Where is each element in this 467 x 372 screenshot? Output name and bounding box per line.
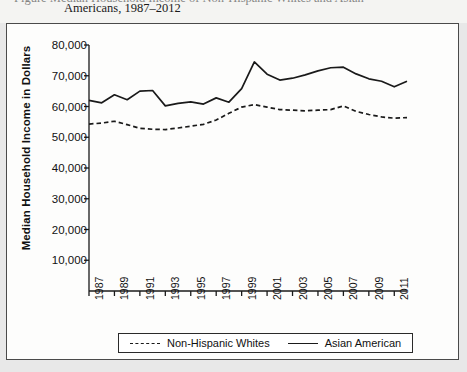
y-tick-label: 60,000: [52, 101, 87, 113]
y-tick-label: 30,000: [52, 193, 87, 205]
legend-item: Non-Hispanic Whites: [130, 337, 270, 349]
series-line-non-hispanic-whites: [89, 105, 407, 130]
caption-line-2: Americans, 1987–2012: [64, 1, 181, 16]
x-tick-label: 2011: [398, 277, 410, 300]
x-tick-label: 1989: [118, 277, 130, 300]
x-tick-label: 1997: [220, 277, 232, 300]
x-tick-label: 1987: [93, 277, 105, 300]
x-tick-label: 2007: [347, 277, 359, 300]
x-tick-label: 1993: [169, 277, 181, 300]
chart-legend: Non-Hispanic WhitesAsian American: [118, 333, 413, 353]
legend-label: Asian American: [325, 337, 401, 349]
y-tick-label: 70,000: [52, 70, 87, 82]
dashed-line-icon: [130, 343, 160, 344]
figure-caption: Figure Median Household Income of Non-Hi…: [0, 0, 467, 23]
data-series-group: [89, 62, 407, 130]
x-tick-label: 2003: [297, 277, 309, 300]
y-tick-label: 40,000: [52, 162, 87, 174]
x-tick-label: 2009: [373, 277, 385, 300]
y-tick-label: 50,000: [52, 131, 87, 143]
x-tick-label: 2001: [271, 277, 283, 300]
y-tick-label: 20,000: [52, 224, 87, 236]
x-tick-label: 1999: [246, 277, 258, 300]
plot-area: Median Household Income in Dollars 80,00…: [7, 24, 458, 359]
y-tick-label: 10,000: [52, 254, 87, 266]
axes: [89, 45, 407, 291]
x-tick-label: 1991: [144, 277, 156, 300]
x-tick-label: 1995: [195, 277, 207, 300]
y-axis-tick-labels: 80,00070,00060,00050,00040,00030,00020,0…: [21, 24, 87, 359]
figure-frame: Median Household Income in Dollars 80,00…: [6, 23, 459, 360]
solid-line-icon: [288, 343, 318, 344]
x-tick-label: 2005: [322, 277, 334, 300]
legend-item: Asian American: [288, 337, 401, 349]
legend-label: Non-Hispanic Whites: [167, 337, 270, 349]
series-line-asian-american: [89, 62, 407, 106]
y-tick-label: 80,000: [52, 39, 87, 51]
